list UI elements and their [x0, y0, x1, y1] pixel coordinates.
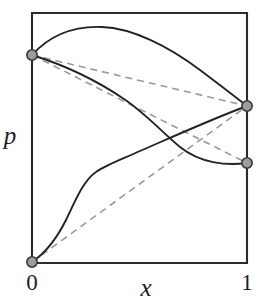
plot-frame	[32, 13, 247, 263]
node-left-upper	[27, 50, 37, 60]
figure-container: p x 0 1	[0, 0, 268, 306]
node-origin	[27, 257, 37, 267]
x-axis-label: x	[139, 274, 151, 301]
y-axis-label: p	[2, 122, 17, 149]
x-tick-label-min: 0	[26, 270, 38, 295]
node-right-upper	[242, 101, 252, 111]
plot-canvas: p x 0 1	[0, 0, 268, 306]
x-tick-label-max: 1	[241, 270, 253, 295]
node-right-lower	[242, 158, 252, 168]
chord-left-upper-to-right-lower	[32, 55, 247, 163]
chord-origin-to-right-upper	[32, 106, 247, 262]
